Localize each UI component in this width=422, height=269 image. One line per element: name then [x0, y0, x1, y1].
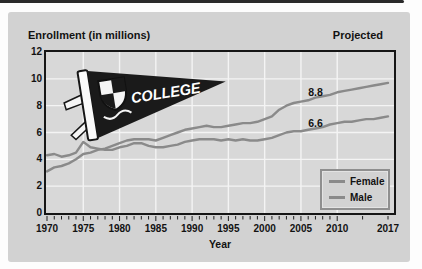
x-tick-label: 1990: [175, 223, 209, 234]
college-pennant-graphic: COLLEGE: [56, 56, 236, 156]
value-label-male: 6.6: [301, 117, 329, 129]
y-tick-label: 8: [16, 100, 42, 112]
x-tick-label: 2010: [320, 223, 354, 234]
x-tick-label: 2005: [284, 223, 318, 234]
y-tick-label: 0: [16, 207, 42, 219]
y-tick-label: 10: [16, 73, 42, 85]
x-axis-title: Year: [46, 238, 394, 250]
x-tick-label: 1970: [30, 223, 64, 234]
chart-panel: Enrollment (in millions) Projected Year …: [8, 12, 410, 262]
x-tick-label: 2000: [248, 223, 282, 234]
x-tick-label: 1995: [211, 223, 245, 234]
legend-item-male: Male: [329, 192, 388, 203]
y-tick-label: 12: [16, 46, 42, 58]
male-line-swatch: [329, 196, 345, 199]
y-tick-label: 2: [16, 180, 42, 192]
x-axis-ticks: [46, 216, 394, 222]
x-tick-label: 2017: [371, 223, 405, 234]
x-tick-label: 1985: [139, 223, 173, 234]
y-tick-label: 4: [16, 153, 42, 165]
value-label-female: 8.8: [301, 86, 329, 98]
legend-label-male: Male: [350, 192, 372, 203]
y-tick-label: 6: [16, 127, 42, 139]
legend-item-female: Female: [329, 176, 388, 187]
top-divider-rule: [0, 0, 404, 3]
female-line-swatch: [329, 180, 345, 183]
y-axis-title: Enrollment (in millions): [28, 29, 150, 41]
projected-note: Projected: [333, 29, 383, 41]
x-tick-label: 1980: [103, 223, 137, 234]
legend-label-female: Female: [350, 176, 384, 187]
x-tick-label: 1975: [66, 223, 100, 234]
chart-legend: Female Male: [320, 169, 390, 210]
figure: Enrollment (in millions) Projected Year …: [0, 0, 422, 269]
